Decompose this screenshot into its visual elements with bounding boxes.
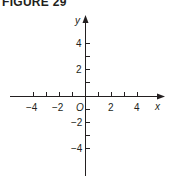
y-tick-label: 2: [76, 64, 82, 75]
y-tick-label: 4: [76, 38, 82, 49]
x-axis-arrow-icon: [157, 94, 165, 100]
y-tick-label: −2: [71, 117, 83, 128]
x-tick-label: −4: [26, 102, 38, 113]
x-tick-label: 4: [134, 102, 140, 113]
y-axis-arrow-icon: [83, 15, 89, 23]
x-tick-label: 2: [108, 102, 114, 113]
y-tick-label: −4: [71, 143, 83, 154]
origin-label: O: [76, 102, 84, 113]
x-tick-label: −2: [52, 102, 64, 113]
x-axis-label: x: [154, 101, 161, 112]
coordinate-plane: y x O −4 −2 2 4 4 2 −2 −4: [0, 0, 173, 176]
y-axis-label: y: [74, 15, 81, 26]
